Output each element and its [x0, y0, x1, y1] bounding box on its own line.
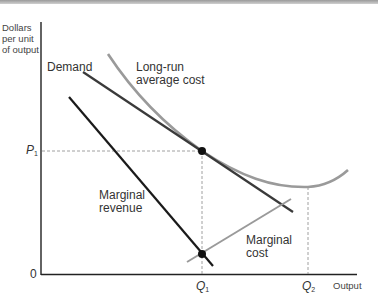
origin-label: 0 — [30, 268, 37, 281]
mr-mc-point — [198, 250, 206, 258]
y-axis-label: Dollars per unit of output — [2, 22, 39, 55]
p1-subscript: 1 — [34, 150, 38, 157]
q2-label: Q2 — [302, 280, 315, 296]
y-axis-label-line-1: Dollars — [2, 22, 39, 33]
q1-subscript: 1 — [205, 286, 209, 293]
marginal-cost-label: Marginal cost — [246, 234, 292, 260]
y-axis-label-line-3: of output — [2, 44, 39, 55]
x-axis-label: Output — [333, 279, 362, 292]
p1-label: P1 — [26, 144, 38, 160]
mc-label-line-2: cost — [246, 247, 292, 260]
marginal-revenue-line — [69, 97, 213, 266]
lrac-label-line-2: average cost — [136, 74, 205, 87]
marginal-revenue-label: Marginal revenue — [99, 189, 145, 215]
q2-subscript: 2 — [311, 286, 315, 293]
y-axis-label-line-2: per unit — [2, 33, 39, 44]
q2-letter: Q — [302, 279, 311, 293]
p1-letter: P — [26, 143, 34, 157]
diagram-canvas — [0, 0, 378, 301]
demand-label: Demand — [47, 61, 92, 74]
q1-letter: Q — [196, 279, 205, 293]
lrac-label: Long-run average cost — [136, 61, 205, 87]
demand-lrac-point — [198, 147, 206, 155]
mr-label-line-2: revenue — [99, 202, 145, 215]
q1-label: Q1 — [196, 280, 209, 296]
